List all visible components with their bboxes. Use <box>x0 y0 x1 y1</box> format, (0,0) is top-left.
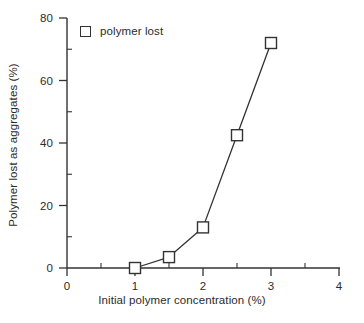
x-tick-label-2: 2 <box>200 280 207 292</box>
x-axis-title: Initial polymer concentration (%) <box>0 294 364 306</box>
y-axis-major-ticks <box>59 18 67 268</box>
series-polymer-lost-line <box>135 43 271 268</box>
x-tick-label-0: 0 <box>64 280 71 292</box>
data-point-marker <box>232 130 243 141</box>
legend-square-marker-icon <box>80 26 91 37</box>
y-tick-label-60: 60 <box>20 75 53 87</box>
chart-legend: polymer lost <box>80 25 163 37</box>
y-axis-minor-ticks <box>67 49 72 237</box>
y-tick-label-40: 40 <box>20 137 53 149</box>
data-point-marker <box>164 252 175 263</box>
y-tick-label-0: 0 <box>20 262 53 274</box>
y-axis-title: Polymer lost as aggregates (%) <box>7 63 19 226</box>
chart-figure: 80 60 40 20 0 0 1 2 3 4 Initial polymer … <box>0 0 364 323</box>
x-tick-label-3: 3 <box>268 280 275 292</box>
y-axis-title-container: Polymer lost as aggregates (%) <box>2 0 24 290</box>
x-tick-label-1: 1 <box>132 280 139 292</box>
y-tick-label-80: 80 <box>20 12 53 24</box>
data-point-marker <box>198 222 209 233</box>
x-axis-major-ticks <box>67 268 339 276</box>
data-point-marker <box>130 263 141 274</box>
line-chart-plot <box>0 0 364 323</box>
legend-item-label: polymer lost <box>100 25 163 37</box>
y-tick-label-20: 20 <box>20 200 53 212</box>
x-tick-label-4: 4 <box>336 280 343 292</box>
data-point-marker <box>266 38 277 49</box>
series-polymer-lost-markers <box>130 38 277 274</box>
